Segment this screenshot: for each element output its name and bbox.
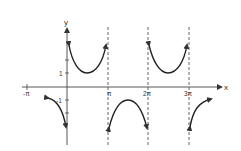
tick-label-3pi: 3π (184, 90, 193, 97)
branch-3 (109, 100, 147, 128)
tick-label-2pi: 2π (143, 90, 152, 97)
ticks (27, 60, 69, 113)
branch-2 (69, 45, 106, 73)
branch-4 (149, 45, 187, 73)
csc-graph: y x -π π 2π 3π 1 -1 (0, 0, 241, 151)
csc-curves (48, 45, 211, 128)
tick-label-pi: π (107, 90, 112, 97)
branch-5 (190, 99, 211, 127)
tick-label-1: 1 (59, 70, 63, 77)
y-axis-label: y (64, 18, 68, 27)
tick-label-neg-pi: -π (23, 90, 30, 97)
x-axis-label: x (224, 83, 228, 92)
asymptotes (108, 27, 189, 146)
